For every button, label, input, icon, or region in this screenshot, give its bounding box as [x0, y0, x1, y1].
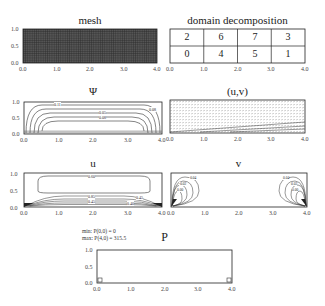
- psi-title: Ψ: [24, 85, 162, 97]
- mesh-xtick-1: 1.0: [53, 66, 61, 72]
- v-label-right: 0.02: [291, 182, 297, 186]
- dd-xtick-1: 1.0: [200, 66, 208, 72]
- psi-contours: [24, 102, 162, 134]
- dd-xtick-2: 2.0: [234, 66, 242, 72]
- p-title: P: [97, 230, 232, 245]
- uv-title: (u,v): [170, 85, 305, 97]
- v-label-left: -0.04: [189, 176, 196, 180]
- dd-title: domain decomposition: [165, 14, 310, 26]
- u-xtick-2: 2.0: [89, 210, 97, 216]
- p-xtick-1: 1.0: [127, 286, 135, 292]
- p-ytick-1: 1.0: [85, 247, 93, 253]
- dd-xtick-4: 4.0: [301, 66, 309, 72]
- u-plot: 0.60 0.85 0.45 0.45 0.40: [24, 173, 162, 207]
- dd-cell: 7: [238, 31, 272, 42]
- p-ytick-0: 0.0: [85, 280, 93, 286]
- mesh-plot: [23, 29, 157, 63]
- psi-xtick-2: 2.0: [89, 137, 97, 143]
- psi-ytick-1: 1.0: [12, 99, 20, 105]
- v-xtick-4: 4.0: [303, 210, 311, 216]
- p-xtick-0: 0.0: [93, 286, 101, 292]
- mesh-title: mesh: [23, 14, 157, 26]
- dd-cell: 6: [204, 31, 238, 42]
- psi-xtick-3: 3.0: [124, 137, 132, 143]
- v-xtick-1: 1.0: [201, 210, 209, 216]
- mesh-xtick-4: 4.0: [153, 66, 161, 72]
- v-xtick-0: 0.0: [167, 210, 175, 216]
- v-plot: -0.04 -0.02 0.00 0.04 0.02 0.00: [171, 173, 307, 207]
- psi-ytick-0: 0.0: [12, 131, 20, 137]
- p-plot: [97, 250, 232, 283]
- uv-xtick-2: 2.0: [234, 136, 242, 142]
- dd-xtick-0: 0.0: [166, 66, 174, 72]
- u-xtick-4: 4.0: [158, 210, 166, 216]
- u-xtick-3: 3.0: [124, 210, 132, 216]
- dd-cell: 1: [271, 48, 305, 59]
- u-ytick-05: 0.5: [10, 188, 18, 194]
- u-label: 0.60: [88, 174, 95, 179]
- u-ytick-1: 1.0: [10, 171, 18, 177]
- u-xtick-1: 1.0: [55, 210, 63, 216]
- p-xtick-2: 2.0: [161, 286, 169, 292]
- uv-xtick-1: 1.0: [200, 136, 208, 142]
- p-ytick-05: 0.5: [85, 264, 93, 270]
- mesh-xtick-2: 2.0: [86, 66, 94, 72]
- psi-xtick-0: 0.0: [20, 137, 28, 143]
- dd-cell: 3: [271, 31, 305, 42]
- mesh-xtick-0: 0.0: [19, 66, 27, 72]
- mesh-ytick-0: 0.0: [11, 60, 19, 66]
- mesh-grid: [23, 29, 157, 63]
- p-xtick-3: 3.0: [194, 286, 202, 292]
- u-title: u: [24, 157, 162, 169]
- dd-cell: 4: [204, 48, 238, 59]
- p-contours: [97, 250, 232, 283]
- mesh-ytick-1: 1.0: [11, 26, 19, 32]
- v-title: v: [170, 157, 307, 169]
- u-label: 0.45: [88, 199, 95, 204]
- uv-vectors: [170, 100, 305, 133]
- u-label: 0.40: [127, 201, 134, 206]
- uv-xtick-3: 3.0: [267, 136, 275, 142]
- v-label-right: 0.00: [292, 188, 298, 192]
- dd-xtick-3: 3.0: [267, 66, 275, 72]
- uv-xtick-0: 0.0: [166, 136, 174, 142]
- dd-plot: 2 6 7 3 0 4 5 1: [170, 29, 305, 63]
- v-label-right: 0.04: [283, 176, 289, 180]
- dd-cell: 5: [238, 48, 272, 59]
- u-label: 0.45: [136, 195, 143, 200]
- psi-ytick-05: 0.5: [12, 115, 20, 121]
- uv-plot: [170, 100, 305, 133]
- psi-label: 0.11: [54, 102, 61, 107]
- u-ytick-0: 0.0: [10, 205, 18, 211]
- v-xtick-3: 3.0: [269, 210, 277, 216]
- v-label-left: -0.02: [179, 182, 186, 186]
- mesh-xtick-3: 3.0: [120, 66, 128, 72]
- u-xtick-0: 0.0: [20, 210, 28, 216]
- psi-label: 0.08: [99, 115, 106, 120]
- psi-xtick-4: 4.0: [158, 137, 166, 143]
- p-xtick-4: 4.0: [228, 286, 236, 292]
- uv-xtick-4: 4.0: [301, 136, 309, 142]
- psi-plot: 0.11 0.05 0.08 0.08: [24, 102, 162, 134]
- psi-label: 0.08: [149, 107, 156, 112]
- dd-cell: 0: [170, 48, 204, 59]
- psi-xtick-1: 1.0: [55, 137, 63, 143]
- dd-cell: 2: [170, 31, 204, 42]
- mesh-ytick-05: 0.5: [11, 43, 19, 49]
- v-label-left: 0.00: [177, 188, 183, 192]
- v-xtick-2: 2.0: [235, 210, 243, 216]
